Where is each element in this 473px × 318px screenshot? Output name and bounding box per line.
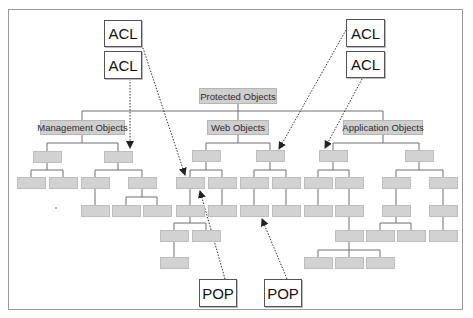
tree-node [366,230,395,242]
tree-node [335,205,364,217]
tree-node [176,177,205,189]
branch-label: Web Objects [211,122,265,133]
acl-label: ACL [351,25,380,42]
connector-layer [0,0,473,318]
tree-node [335,230,364,242]
tree-node [382,205,411,217]
acl-tag: ACL [346,19,385,47]
tree-node [81,205,110,217]
tree-node [304,257,333,269]
tree-node [304,205,333,217]
branch-node-web: Web Objects [207,120,269,135]
branch-node-management: Management Objects [40,120,125,135]
tree-node [397,230,426,242]
pop-tag: POP [264,279,302,307]
tree-node [208,177,237,189]
tree-node [104,151,133,163]
acl-label: ACL [108,25,137,42]
tree-node [240,205,269,217]
pop-label: POP [202,285,234,302]
acl-arrow-3 [279,30,346,149]
tree-node [176,205,205,217]
tree-node [304,177,333,189]
tree-node [429,230,458,242]
tree-node [382,177,411,189]
tree-node [429,205,458,217]
acl-tag: ACL [104,51,142,79]
acl-tag: ACL [104,20,142,47]
tree-node [335,177,364,189]
tree-node [319,150,348,162]
acl-arrow-4 [325,79,362,148]
tree-node [429,177,458,189]
tree-node [240,177,269,189]
tree-node [405,150,434,162]
tree-node [81,177,110,189]
tree-node [160,257,189,269]
tree-node [192,150,221,162]
tree-node [112,205,141,217]
tree-node [143,205,172,217]
acl-label: ACL [351,56,380,73]
pop-tag: POP [199,279,237,307]
tree-node [256,150,285,162]
tree-node [49,177,78,189]
tree-node [272,205,301,217]
branch-label: Management Objects [37,122,127,133]
tree-node [208,205,237,217]
tree-node [366,257,395,269]
tree-node [272,177,301,189]
branch-node-application: Application Objects [343,120,423,135]
acl-tag: ACL [346,51,385,78]
branch-label: Application Objects [342,122,423,133]
tree-node [128,177,157,189]
pop-arrow-2 [262,219,287,279]
tree-node [17,177,46,189]
tree-node [335,257,364,269]
root-label: Protected Objects [200,91,276,102]
tree-node [160,230,189,242]
acl-arrow-1 [142,45,185,175]
acl-label: ACL [108,57,137,74]
tree-node [33,151,62,163]
stray-dot [55,207,57,209]
pop-label: POP [267,285,299,302]
root-node-protected-objects: Protected Objects [199,88,277,104]
tree-node [192,230,221,242]
